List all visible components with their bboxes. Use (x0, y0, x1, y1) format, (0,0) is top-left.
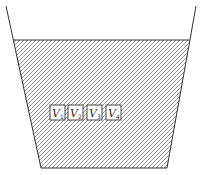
liquid-region (13, 40, 190, 168)
block-v3: V3 (87, 105, 102, 120)
block-v2: V2 (68, 105, 83, 120)
block-v4: V4 (106, 105, 121, 120)
vessel-diagram: V1 V2 V3 V4 (0, 0, 200, 175)
block-v1: V1 (50, 105, 65, 120)
